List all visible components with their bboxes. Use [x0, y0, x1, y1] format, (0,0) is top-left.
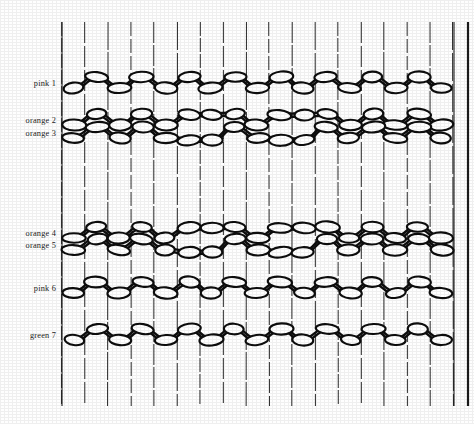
- bead-r1-5: [154, 81, 177, 94]
- bead-r6-11: [294, 287, 316, 299]
- weft-row-r2: [62, 108, 454, 132]
- bead-r5-14: [360, 233, 383, 244]
- bead-r7-15: [385, 334, 406, 345]
- bead-r4-14: [362, 222, 384, 233]
- bead-r2-9: [244, 119, 268, 132]
- bead-r3-13: [337, 132, 359, 144]
- bead-r1-3: [107, 82, 131, 93]
- bead-r4-7: [201, 223, 224, 234]
- bead-r6-12: [314, 276, 337, 287]
- bead-r7-17: [431, 335, 452, 346]
- weft-row-r7: [64, 322, 452, 346]
- bead-r1-9: [246, 82, 270, 93]
- bead-r7-10: [269, 323, 293, 335]
- bead-r2-11: [294, 109, 314, 120]
- bead-r4-9: [246, 232, 270, 243]
- bead-r5-5: [155, 244, 175, 255]
- bead-r5-16: [408, 233, 430, 244]
- bead-r3-17: [430, 132, 451, 144]
- warp-thread-18: [453, 22, 454, 406]
- bead-r6-14: [362, 277, 382, 287]
- bead-r7-11: [292, 334, 314, 347]
- bead-r4-12: [315, 221, 340, 234]
- bead-r4-11: [292, 222, 316, 234]
- bead-r4-5: [154, 232, 175, 244]
- bead-r3-8: [224, 122, 245, 133]
- weft-row-r1: [63, 70, 452, 94]
- bead-r6-9: [245, 288, 269, 299]
- bead-r7-16: [407, 323, 428, 336]
- bead-r3-6: [177, 134, 201, 146]
- bead-r6-17: [429, 287, 452, 299]
- bead-r2-5: [155, 119, 178, 130]
- bead-r7-3: [109, 334, 132, 346]
- bead-r5-15: [383, 244, 408, 256]
- bead-r2-3: [109, 119, 132, 131]
- bead-r1-4: [129, 71, 154, 82]
- bead-r5-12: [317, 234, 337, 244]
- bead-r2-13: [339, 120, 362, 131]
- bead-r4-17: [429, 232, 453, 244]
- bead-r3-7: [201, 134, 222, 145]
- bead-r7-14: [361, 324, 385, 335]
- weft-row-group: [61, 70, 454, 346]
- bead-r5-9: [246, 244, 270, 255]
- bead-r4-3: [107, 232, 129, 244]
- bead-r5-10: [268, 245, 293, 259]
- weft-row-r4: [62, 221, 453, 245]
- bead-r4-16: [407, 222, 428, 232]
- figure-canvas: pink 1 orange 2 orange 3 orange 4 orange…: [0, 0, 474, 424]
- bead-r4-6: [177, 221, 201, 235]
- bead-r5-7: [202, 246, 222, 258]
- bead-r6-2: [84, 276, 107, 287]
- bead-r4-10: [268, 223, 292, 233]
- bead-r5-6: [178, 247, 200, 259]
- loom-diagram-svg: [0, 0, 474, 424]
- bead-r4-13: [339, 233, 359, 243]
- bead-r6-1: [62, 288, 84, 298]
- bead-r5-8: [224, 233, 246, 245]
- bead-r5-1: [61, 245, 85, 256]
- bead-r5-11: [291, 246, 314, 258]
- weft-row-r6: [62, 275, 452, 299]
- bead-r4-8: [224, 221, 246, 233]
- bead-r1-17: [431, 83, 452, 93]
- bead-r1-16: [408, 71, 431, 83]
- bead-r4-1: [62, 233, 86, 243]
- bead-r1-1: [63, 81, 84, 94]
- warp-thread-group: [62, 22, 454, 406]
- bead-r2-7: [201, 109, 222, 121]
- bead-r1-15: [385, 82, 408, 93]
- bead-r3-16: [407, 122, 431, 133]
- bead-r2-12: [317, 108, 338, 120]
- bead-r3-5: [154, 133, 178, 143]
- bead-r2-1: [62, 119, 86, 131]
- bead-r5-13: [337, 244, 359, 255]
- bead-r3-1: [62, 132, 84, 143]
- bead-r6-3: [107, 287, 131, 300]
- bead-r7-5: [155, 334, 178, 345]
- bead-r7-8: [224, 323, 244, 335]
- bead-r1-14: [362, 71, 382, 82]
- bead-r6-7: [201, 287, 221, 298]
- bead-r3-11: [293, 134, 315, 146]
- bead-r3-10: [269, 134, 293, 146]
- bead-r6-16: [408, 276, 431, 288]
- bead-r2-4: [131, 108, 153, 120]
- bead-r1-8: [224, 72, 246, 82]
- bead-r3-4: [132, 121, 154, 133]
- bead-r5-17: [430, 244, 453, 257]
